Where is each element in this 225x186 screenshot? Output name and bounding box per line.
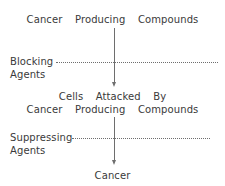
- arrow-head-top: [112, 82, 116, 87]
- arrow-shaft-bottom: [114, 117, 115, 161]
- label-suppressing-agents-title: Suppressing: [10, 132, 72, 144]
- arrow-head-bottom: [112, 160, 116, 165]
- dotted-separator-suppressing: [72, 138, 210, 139]
- node-cancer-producing-compounds-middle: Cancer Producing Compounds: [0, 104, 225, 116]
- node-cancer-producing-compounds-top: Cancer Producing Compounds: [0, 14, 225, 26]
- node-cancer-bottom: Cancer: [0, 170, 225, 182]
- arrow-shaft-top: [114, 28, 115, 83]
- node-cells-attacked-by: Cells Attacked By: [0, 91, 225, 103]
- label-blocking-agents-sub: Agents: [10, 69, 45, 81]
- cancer-pathway-diagram: Cancer Producing Compounds Blocking Agen…: [0, 0, 225, 186]
- label-suppressing-agents-sub: Agents: [10, 145, 45, 157]
- dotted-separator-blocking: [56, 62, 218, 63]
- label-blocking-agents-title: Blocking: [10, 56, 53, 68]
